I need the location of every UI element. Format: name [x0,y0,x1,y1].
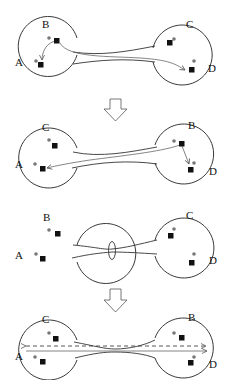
square-c [168,233,174,239]
dot-d [192,59,196,63]
label-d: D [208,62,216,74]
square-d [189,260,195,266]
right-region-circle [153,25,212,85]
square-b [55,231,61,237]
dot-d [192,161,196,165]
panel-2: C A B D [15,119,217,188]
panel-1: B A C D [15,17,216,86]
throat-lower-wall [73,60,155,64]
dot-c [172,37,176,41]
down-arrow-icon [104,289,127,312]
dot-a [33,355,37,359]
label-a: A [15,350,23,362]
dot-b [172,139,176,143]
square-b [179,335,185,341]
label-a: A [15,158,23,170]
label-d: D [209,254,217,266]
label-b: B [188,311,195,323]
dot-d [192,252,196,256]
square-a [38,62,44,68]
label-a: A [15,249,23,261]
square-a [40,166,46,172]
throat-upper-wall [73,147,157,155]
square-d [188,167,194,173]
dot-d [192,355,196,359]
dot-a [34,59,38,63]
panel-3: B A C D [15,209,217,284]
dot-c [47,138,51,142]
label-d: D [209,358,217,370]
label-b: B [188,119,195,131]
label-c: C [186,209,193,221]
local-geodesic-b-to-a [42,41,56,60]
throat-upper-wall [74,340,155,349]
dot-a [34,252,38,256]
throat-lower-wall [75,352,155,358]
label-a: A [15,56,23,68]
label-d: D [209,165,217,177]
left-region-circle [19,320,77,380]
left-region-circle [19,128,77,188]
label-c: C [42,313,49,325]
square-c [167,40,173,46]
dot-b [47,36,51,40]
throat-geodesic-b-to-d [60,43,185,70]
dot-c [47,331,51,335]
down-arrow-icon [104,99,127,121]
dot-b [47,228,51,232]
throat-loop-ellipse [109,242,116,260]
label-c: C [186,18,193,30]
right-region-circle [155,124,214,184]
dot-b [172,331,176,335]
left-region-circle [77,224,136,284]
right-region-circle [155,218,214,278]
panel-4: C A B D [15,311,217,380]
square-b [54,38,60,44]
label-b: B [43,211,50,223]
square-c [52,143,58,149]
square-b [179,141,185,147]
throat-geodesic-b-to-a [47,145,180,168]
square-d [189,67,195,73]
wormhole-diagram: B A C D C A B D [0,0,225,380]
dot-c [172,227,176,231]
square-a [40,359,46,365]
dot-a [33,162,37,166]
local-geodesic-b-to-d [182,146,189,164]
square-d [188,360,194,366]
square-c [53,336,59,342]
throat-lower-wall [72,162,157,168]
square-a [40,256,46,262]
label-c: C [42,121,49,133]
throat-upper-wall [73,46,155,54]
right-region-circle [155,318,213,378]
label-b: B [42,18,49,30]
